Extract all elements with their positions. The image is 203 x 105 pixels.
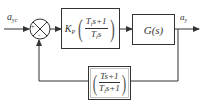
plant-label: G(s): [133, 15, 174, 44]
input-subscript: yc: [12, 17, 17, 23]
plus-sign: +: [31, 24, 34, 30]
num-rest: s+1: [92, 16, 106, 26]
controller-gain: KP: [65, 23, 75, 35]
feedback-transfer-function: ( Ts+1 Tis+1 ): [89, 67, 130, 99]
feedback-numerator: Ts+1: [99, 72, 119, 83]
left-paren: (: [78, 16, 83, 42]
right-paren: ): [109, 16, 114, 42]
controller-denominator: Tis: [91, 29, 101, 40]
output-subscript: y: [185, 17, 188, 23]
feedback-fraction: Ts+1 Tis+1: [99, 72, 120, 95]
controller-fraction: Tis+1 Tis: [85, 17, 108, 41]
input-label: ayc: [7, 12, 17, 23]
minus-sign: -: [38, 32, 40, 39]
fb-den-rest: s+1: [106, 83, 120, 93]
fb-right-paren: ): [122, 71, 126, 95]
controller-transfer-function: KP ( Tis+1 Tis ): [62, 9, 119, 48]
feedback-denominator: Tis+1: [99, 83, 120, 94]
den-rest: s: [98, 29, 102, 39]
gain-subscript: P: [71, 29, 75, 35]
controller-numerator: Tis+1: [85, 17, 108, 29]
output-label: ay: [180, 13, 187, 23]
fb-left-paren: (: [93, 71, 97, 95]
